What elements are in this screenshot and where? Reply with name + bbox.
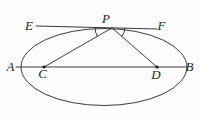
label-f: F (157, 18, 167, 33)
label-c: C (38, 66, 47, 81)
label-d: D (150, 67, 161, 82)
label-a: A (6, 59, 15, 74)
geometry-figure: E P F A B C D (0, 0, 202, 122)
label-b: B (186, 59, 194, 74)
segment-pc (44, 28, 112, 67)
ellipse-diagram-canvas: E P F A B C D (0, 0, 202, 122)
segment-pd (112, 28, 157, 67)
label-p: P (101, 11, 110, 26)
label-e: E (24, 18, 33, 33)
